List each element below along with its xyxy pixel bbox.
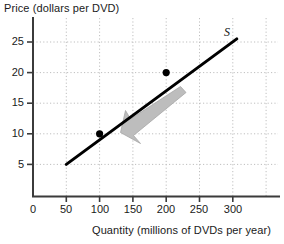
ytick-label-15: 15 — [2, 96, 24, 108]
data-point-100-10 — [96, 130, 103, 137]
y-axis-title: Price (dollars per DVD) — [4, 2, 119, 14]
xtick-label-150: 150 — [120, 203, 146, 215]
x-axis-title: Quantity (millions of DVDs per year) — [92, 224, 271, 236]
movement-arrow — [121, 87, 187, 144]
data-point-200-20 — [163, 69, 170, 76]
supply-curve-chart: Price (dollars per DVD) Quantity (millio… — [0, 0, 284, 244]
ytick-label-10: 10 — [2, 127, 24, 139]
ytick-label-20: 20 — [2, 66, 24, 78]
supply-curve-line — [66, 39, 237, 164]
xtick-label-0: 0 — [20, 203, 46, 215]
supply-curve-label: S — [224, 25, 230, 40]
xtick-label-50: 50 — [53, 203, 79, 215]
movement-arrow-shape — [121, 87, 187, 144]
xtick-label-250: 250 — [186, 203, 212, 215]
ytick-label-25: 25 — [2, 35, 24, 47]
xtick-label-100: 100 — [87, 203, 113, 215]
ytick-label-5: 5 — [2, 158, 24, 170]
xtick-label-300: 300 — [220, 203, 246, 215]
xtick-label-200: 200 — [153, 203, 179, 215]
